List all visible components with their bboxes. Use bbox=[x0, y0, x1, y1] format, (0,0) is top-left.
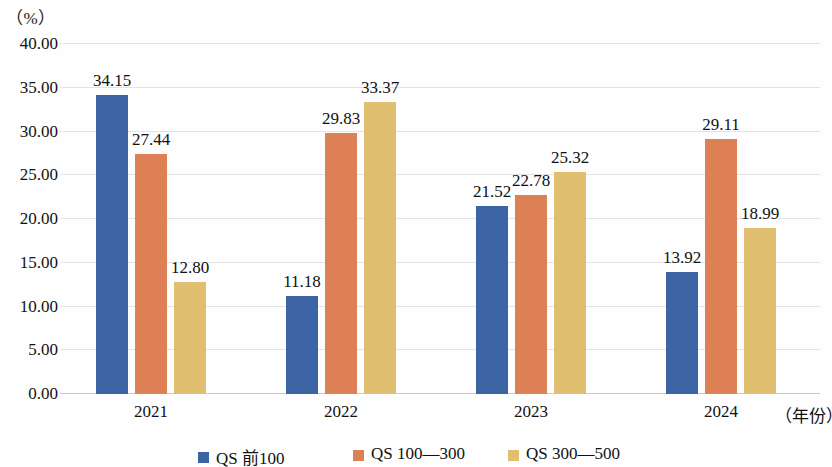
bar[interactable]: 22.78 bbox=[515, 195, 547, 394]
bar[interactable]: 25.32 bbox=[554, 172, 586, 394]
x-axis-tick-label: 2022 bbox=[324, 402, 358, 422]
bar[interactable]: 29.11 bbox=[705, 139, 737, 394]
bar-group: 11.1829.8333.37 bbox=[286, 44, 396, 394]
y-axis-tick-labels: 40.0035.0030.0025.0020.0015.0010.005.000… bbox=[0, 44, 58, 394]
bars-layer: 34.1527.4412.8011.1829.8333.3721.5222.78… bbox=[60, 44, 820, 394]
legend-color-swatch bbox=[353, 450, 364, 461]
x-axis-tick-label: 2023 bbox=[514, 402, 548, 422]
bar-value-label: 18.99 bbox=[741, 204, 779, 224]
bar[interactable]: 11.18 bbox=[286, 296, 318, 394]
bar-value-label: 27.44 bbox=[132, 130, 170, 150]
bar-value-label: 25.32 bbox=[551, 148, 589, 168]
bar[interactable]: 12.80 bbox=[174, 282, 206, 394]
y-axis-tick-label: 10.00 bbox=[2, 297, 58, 317]
y-axis-tick-label: 35.00 bbox=[2, 78, 58, 98]
y-axis-unit-label: （%） bbox=[6, 4, 56, 29]
y-axis-tick-label: 25.00 bbox=[2, 165, 58, 185]
y-axis-tick-label: 20.00 bbox=[2, 209, 58, 229]
chart-legend: QS 前100QS 100—300QS 300—500 bbox=[0, 444, 832, 467]
legend-item[interactable]: QS 前100 bbox=[198, 444, 284, 467]
bar[interactable]: 27.44 bbox=[135, 154, 167, 394]
bar-value-label: 12.80 bbox=[171, 258, 209, 278]
bar-value-label: 11.18 bbox=[283, 272, 321, 292]
bar-value-label: 13.92 bbox=[663, 248, 701, 268]
bar-value-label: 29.83 bbox=[322, 109, 360, 129]
bar[interactable]: 13.92 bbox=[666, 272, 698, 394]
bar-group: 21.5222.7825.32 bbox=[476, 44, 586, 394]
bar-value-label: 34.15 bbox=[93, 71, 131, 91]
bar-value-label: 33.37 bbox=[361, 78, 399, 98]
bar-value-label: 22.78 bbox=[512, 171, 550, 191]
bar-value-label: 29.11 bbox=[702, 115, 740, 135]
bar-group: 34.1527.4412.80 bbox=[96, 44, 206, 394]
x-axis-tick-label: 2024 bbox=[704, 402, 738, 422]
x-axis-tick-label: 2021 bbox=[134, 402, 168, 422]
y-axis-tick-label: 5.00 bbox=[2, 340, 58, 360]
legend-label: QS 100—300 bbox=[371, 444, 465, 464]
x-axis-tick-labels: （年份） 2021202220232024 bbox=[60, 398, 820, 428]
y-axis-tick-label: 30.00 bbox=[2, 122, 58, 142]
y-axis-tick-label: 15.00 bbox=[2, 253, 58, 273]
bar[interactable]: 18.99 bbox=[744, 228, 776, 394]
bar-chart: （%） 40.0035.0030.0025.0020.0015.0010.005… bbox=[0, 0, 832, 467]
bar[interactable]: 29.83 bbox=[325, 133, 357, 394]
bar[interactable]: 21.52 bbox=[476, 206, 508, 394]
legend-item[interactable]: QS 100—300 bbox=[353, 444, 465, 464]
legend-label: QS 300—500 bbox=[526, 444, 620, 464]
legend-color-swatch bbox=[198, 452, 209, 463]
legend-item[interactable]: QS 300—500 bbox=[508, 444, 620, 464]
x-axis-unit-label: （年份） bbox=[775, 402, 832, 427]
legend-label: QS 前100 bbox=[216, 444, 284, 467]
legend-color-swatch bbox=[508, 450, 519, 461]
y-axis-tick-label: 0.00 bbox=[2, 384, 58, 404]
bar-group: 13.9229.1118.99 bbox=[666, 44, 776, 394]
bar[interactable]: 33.37 bbox=[364, 102, 396, 394]
y-axis-tick-label: 40.00 bbox=[2, 34, 58, 54]
bar[interactable]: 34.15 bbox=[96, 95, 128, 394]
bar-value-label: 21.52 bbox=[473, 182, 511, 202]
